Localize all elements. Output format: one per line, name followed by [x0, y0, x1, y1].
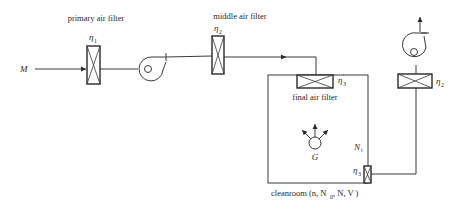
particle-source-icon [302, 124, 328, 149]
duct-4 [284, 57, 316, 75]
svg-text:t: t [361, 147, 363, 153]
return-filter-icon [364, 166, 371, 183]
middle-efficiency: η 2 [214, 23, 222, 35]
primary-efficiency: η 1 [89, 32, 97, 44]
middle-filter-label: middle air filter [213, 11, 267, 21]
return-efficiency: η 3 [353, 165, 361, 177]
svg-text:3: 3 [358, 171, 361, 177]
svg-text:1: 1 [94, 38, 97, 44]
svg-text:N: N [353, 142, 361, 152]
svg-text:2: 2 [441, 82, 444, 88]
primary-filter-label: primary air filter [68, 13, 125, 23]
exhaust-efficiency: η 2 [436, 76, 444, 88]
final-filter-label: final air filter [292, 92, 337, 102]
cleanroom-diagram: M primary air filter η 1 middle air filt… [0, 0, 464, 205]
indoor-concentration-label: N t [353, 142, 363, 153]
svg-text:3: 3 [343, 81, 346, 87]
svg-text:2: 2 [219, 29, 222, 35]
source-label: G [312, 152, 319, 162]
primary-filter-icon [87, 46, 100, 84]
supply-fan-icon [139, 53, 166, 81]
final-filter-icon [297, 75, 333, 88]
exhaust-fan-icon [402, 33, 429, 57]
middle-filter-icon [212, 36, 224, 74]
inlet-label: M [19, 64, 28, 74]
exhaust-filter-icon [398, 74, 432, 88]
svg-text:cleanroom (n, N: cleanroom (n, N [271, 188, 326, 198]
svg-text:': ' [343, 73, 344, 79]
return-duct [371, 88, 416, 174]
cleanroom-label: cleanroom (n, N 0 , N, V ) [271, 188, 359, 200]
svg-text:, N, V ): , N, V ) [333, 188, 359, 198]
duct-2 [166, 56, 212, 57]
